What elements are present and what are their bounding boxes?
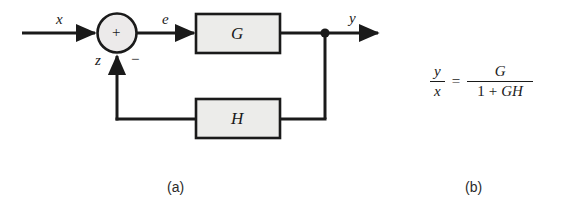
feedback-signal-label: z — [95, 53, 101, 68]
equation-lhs-fraction: y x — [430, 62, 445, 102]
equation-lhs-numerator: y — [430, 62, 445, 81]
summing-junction-plus-sign: + — [112, 25, 120, 40]
equation-rhs-denominator-gh: GH — [501, 83, 523, 99]
equation-rhs-fraction: G 1+GH — [467, 62, 533, 102]
summing-junction-minus-sign: − — [131, 52, 139, 67]
equation-equals-sign: = — [452, 73, 460, 90]
equation-rhs-numerator: G — [491, 62, 510, 81]
equation-rhs-denominator: 1+GH — [473, 82, 527, 101]
caption-panel-b: (b) — [465, 180, 482, 194]
input-signal-label: x — [56, 12, 63, 27]
block-diagram-graphic — [0, 0, 572, 212]
figure-container: x e y z + − G H y x = G 1+GH (a) (b) — [0, 0, 572, 212]
equation-rhs-denominator-plus: + — [489, 83, 497, 99]
forward-block-label: G — [231, 25, 243, 42]
error-signal-label: e — [162, 12, 169, 27]
output-signal-label: y — [349, 11, 356, 26]
feedback-block-label: H — [231, 110, 243, 127]
caption-panel-a: (a) — [167, 180, 184, 194]
equation-rhs-denominator-one: 1 — [477, 83, 485, 99]
equation-lhs-denominator: x — [430, 82, 445, 101]
transfer-function-equation: y x = G 1+GH — [430, 62, 533, 102]
